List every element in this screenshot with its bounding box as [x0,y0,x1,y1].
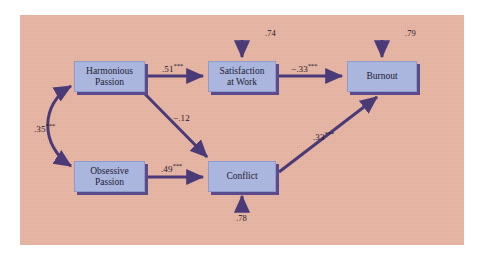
path-label-hp-to-conflict: −.12 [173,111,190,123]
coefficient-value: .33 [313,132,325,142]
node-harmonious-passion: Harmonious Passion [74,61,145,92]
node-label-line1: Satisfaction [220,66,265,76]
significance-stars: *** [46,122,55,130]
node-label-line2: Passion [95,177,124,187]
node-satisfaction-at-work: Satisfaction at Work [208,61,276,92]
significance-stars: *** [325,130,334,138]
path-diagram-figure: Harmonious Passion Satisfaction at Work … [0,0,486,265]
disturbance-label-satisfaction: .74 [265,28,276,38]
path-label-conflict-to-burnout: .33*** [313,130,334,142]
significance-stars: *** [308,62,317,70]
path-label-hp-to-satisfaction: .51*** [162,62,183,74]
node-conflict: Conflict [208,161,276,192]
coefficient-value: .35 [34,124,46,134]
node-label-line1: Obsessive [90,166,129,176]
disturbance-label-burnout: .79 [405,28,416,38]
path-label-op-to-conflict: .49*** [161,162,182,174]
arrow-hp-to-conflict [144,93,207,157]
coefficient-value: −.12 [173,113,190,123]
coefficient-value: .49 [161,164,173,174]
significance-stars: *** [173,162,182,170]
path-label-hp-op-correlation: .35*** [34,122,55,134]
node-label-line2: Passion [95,77,124,87]
node-label-line1: Harmonious [86,66,133,76]
node-burnout: Burnout [347,61,417,92]
path-label-satisfaction-to-burnout: −.33*** [291,62,317,74]
node-label-line2: at Work [227,77,257,87]
coefficient-value: .51 [162,64,174,74]
coefficient-value: −.33 [291,64,308,74]
node-label-line1: Burnout [366,71,397,82]
node-label-line1: Conflict [226,171,257,182]
diagram-arrow-layer [0,0,486,265]
significance-stars: *** [174,62,183,70]
disturbance-label-conflict: .78 [236,213,247,223]
node-obsessive-passion: Obsessive Passion [74,161,145,192]
